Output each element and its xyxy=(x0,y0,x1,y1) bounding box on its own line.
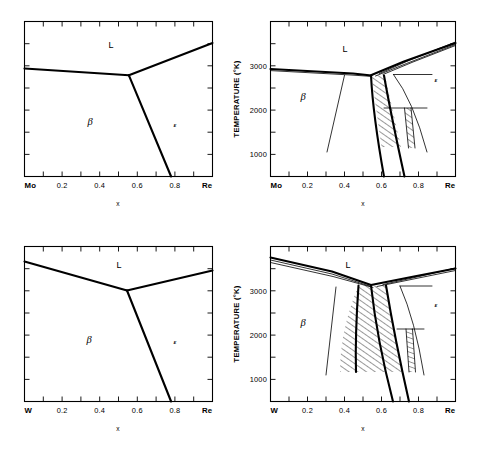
y-axis-ticklabel-3000: 3000 xyxy=(250,62,267,71)
curve-sigma-solidus xyxy=(377,271,456,287)
phase-label-epsilon: ε xyxy=(435,76,438,84)
x-axis-ticks-top xyxy=(289,247,437,252)
curve-beta-liquidus xyxy=(25,69,129,76)
phase-label-beta: β xyxy=(299,317,306,328)
phase-diagram-figure: L β ε Mo 0.2 0.4 0.6 0.8 Re x xyxy=(0,0,483,449)
phase-label-L: L xyxy=(108,40,113,50)
panel-bottom-left: L β ε W 0.2 0.4 0.6 0.8 Re x xyxy=(0,225,240,449)
x-axis-ticklabel-06: 0.6 xyxy=(132,406,143,415)
y-axis-ticks-right xyxy=(208,44,213,155)
curve-beta-solvus-left xyxy=(327,75,345,152)
x-axis-ticklabel-08: 0.8 xyxy=(413,181,424,190)
x-axis-left-endpoint: W xyxy=(271,406,279,415)
phase-label-beta: β xyxy=(299,91,306,102)
x-axis-ticklabel-04: 0.4 xyxy=(94,181,105,190)
curve-beta-epsilon-boundary xyxy=(129,75,171,176)
y-axis-ticks-left xyxy=(271,269,276,380)
y-axis-ticks-right xyxy=(451,44,456,155)
x-axis-ticklabel-04: 0.4 xyxy=(339,181,350,190)
plot-frame xyxy=(25,22,213,177)
y-axis-ticklabel-2000: 2000 xyxy=(250,106,267,115)
curve-beta-liquidus-2 xyxy=(271,263,374,288)
panel-top-right: L β ε 1000 2000 3000 TEMPERATURE (°K) Mo… xyxy=(243,0,483,225)
x-axis-right-endpoint: Re xyxy=(202,181,213,190)
x-axis-ticklabel-08: 0.8 xyxy=(413,406,424,415)
x-axis-ticks-top xyxy=(289,22,437,27)
phase-label-L: L xyxy=(342,44,347,54)
x-axis-left-endpoint: Mo xyxy=(25,181,37,190)
phase-label-beta: β xyxy=(86,116,93,127)
curve-liquidus-extra xyxy=(383,46,456,75)
x-axis-right-endpoint: Re xyxy=(445,406,456,415)
y-axis-ticks-left xyxy=(25,44,30,155)
phase-label-epsilon: ε xyxy=(435,301,438,309)
curve-epsilon-liquidus xyxy=(129,43,213,75)
x-axis-ticklabel-06: 0.6 xyxy=(132,181,143,190)
x-axis-ticklabel-08: 0.8 xyxy=(169,406,180,415)
y-axis-ticks-left xyxy=(271,44,276,155)
x-axis-ticklabel-02: 0.2 xyxy=(302,181,313,190)
x-axis-ticks-bottom xyxy=(289,397,437,402)
y-axis-ticklabel-3000: 3000 xyxy=(250,287,267,296)
y-axis-ticklabel-1000: 1000 xyxy=(250,150,267,159)
x-axis-title: x xyxy=(116,200,120,207)
curve-beta-epsilon-boundary xyxy=(127,291,171,402)
x-axis-ticklabel-06: 0.6 xyxy=(376,406,387,415)
x-axis-ticklabel-04: 0.4 xyxy=(94,406,105,415)
curve-epsilon-liquidus xyxy=(127,271,213,291)
x-axis-left-endpoint: W xyxy=(25,406,33,415)
phase-label-L: L xyxy=(116,260,121,270)
x-axis-ticklabel-02: 0.2 xyxy=(57,181,68,190)
x-axis-ticklabel-06: 0.6 xyxy=(376,181,387,190)
x-axis-ticks-bottom xyxy=(289,172,437,177)
x-axis-ticks-top xyxy=(43,247,193,252)
x-axis-right-endpoint: Re xyxy=(202,406,213,415)
panel-top-left: L β ε Mo 0.2 0.4 0.6 0.8 Re x xyxy=(0,0,240,225)
hatched-region-chi-epsilon xyxy=(405,108,416,148)
phase-label-epsilon: ε xyxy=(174,121,177,129)
x-axis-title: x xyxy=(116,425,120,432)
x-axis-title: x xyxy=(361,425,365,432)
curve-beta-liquidus xyxy=(25,262,128,291)
y-axis-ticks-right xyxy=(451,269,456,380)
y-axis-ticks-left xyxy=(25,269,30,380)
curve-chi-liquidus xyxy=(383,268,456,285)
y-axis-ticklabel-1000: 1000 xyxy=(250,375,267,384)
curve-beta-solvus-left xyxy=(326,287,336,375)
phase-label-beta: β xyxy=(85,334,92,345)
x-axis-ticks-top xyxy=(43,22,193,27)
y-axis-ticks-right xyxy=(208,269,213,380)
plot-frame xyxy=(271,22,456,177)
panel-bottom-right: L β ε 1000 2000 3000 TEMPERATURE (°K) W … xyxy=(243,225,483,449)
y-axis-title: TEMPERATURE (°K) xyxy=(232,285,241,362)
y-axis-ticklabel-2000: 2000 xyxy=(250,331,267,340)
x-axis-ticklabel-02: 0.2 xyxy=(302,406,313,415)
y-axis-title: TEMPERATURE (°K) xyxy=(232,60,241,137)
phase-label-L: L xyxy=(345,260,350,270)
x-axis-ticklabel-08: 0.8 xyxy=(169,181,180,190)
x-axis-right-endpoint: Re xyxy=(445,181,456,190)
x-axis-ticklabel-02: 0.2 xyxy=(57,406,68,415)
x-axis-title: x xyxy=(361,200,365,207)
x-axis-left-endpoint: Mo xyxy=(271,181,283,190)
curve-beta-liquidus xyxy=(271,69,372,76)
curve-sigma-solidus xyxy=(376,45,456,77)
x-axis-ticklabel-04: 0.4 xyxy=(339,406,350,415)
phase-label-epsilon: ε xyxy=(174,338,177,346)
